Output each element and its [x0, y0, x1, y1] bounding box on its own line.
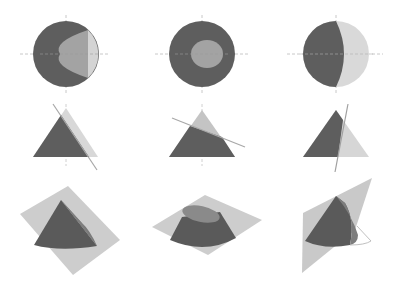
conic-sections-diagram: [0, 0, 401, 289]
top-view-parabola: [20, 15, 110, 93]
top-view-circle: [155, 15, 248, 93]
perspective-view-hyperbola: [302, 178, 372, 273]
cut-region: [303, 110, 343, 157]
perspective-view-circle: [152, 195, 262, 255]
side-view-hyperbola: [303, 104, 369, 172]
side-view-circle: [169, 104, 245, 166]
cut-region: [169, 126, 235, 157]
perspective-view-parabola: [20, 186, 120, 275]
side-view-parabola: [33, 104, 98, 170]
top-view-hyperbola: [287, 15, 383, 93]
